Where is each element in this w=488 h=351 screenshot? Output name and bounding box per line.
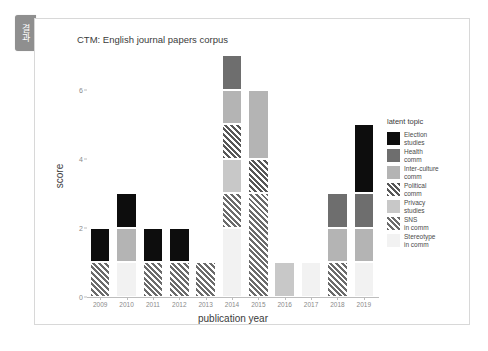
legend: latent topic Election studiesHealth comm… [387, 117, 467, 250]
bar-group[interactable] [90, 55, 111, 297]
bar-group[interactable] [248, 55, 269, 297]
bar-segment-political-comm[interactable] [222, 124, 243, 159]
y-axis-tick-mark [84, 89, 87, 90]
bar-segment-stereotype-in-comm[interactable] [116, 262, 137, 297]
x-axis-tick-mark [232, 297, 233, 300]
x-axis-tick-mark [364, 297, 365, 300]
side-tab-results[interactable]: 결과 [15, 15, 36, 51]
bar-segment-election-studies[interactable] [90, 228, 111, 263]
bar-segment-health-comm[interactable] [327, 193, 348, 228]
bar-segment-sns-in-comm[interactable] [195, 262, 216, 297]
legend-swatch-health-comm [387, 149, 400, 162]
legend-swatch-inter-culture-comm [387, 166, 400, 179]
x-axis-tick-label: 2011 [146, 301, 160, 308]
bar-segment-election-studies[interactable] [169, 228, 190, 263]
x-axis-line [87, 297, 379, 298]
legend-item-political-comm[interactable]: Political comm [387, 182, 467, 197]
x-axis-tick-label: 2010 [119, 301, 133, 308]
bar-group[interactable] [327, 55, 348, 297]
legend-item-stereotype-in-comm[interactable]: Stereotype in comm [387, 233, 467, 248]
bar-group[interactable] [274, 55, 295, 297]
x-axis-tick-label: 2015 [251, 301, 265, 308]
x-axis-tick-label: 2013 [198, 301, 212, 308]
bar-segment-stereotype-in-comm[interactable] [354, 262, 375, 297]
y-axis-title: score [54, 164, 65, 188]
bar-segment-inter-culture-comm[interactable] [327, 228, 348, 263]
legend-label-stereotype-in-comm: Stereotype in comm [404, 233, 435, 248]
x-axis-title: publication year [87, 313, 379, 324]
bar-segment-sns-in-comm[interactable] [90, 262, 111, 297]
bar-segment-health-comm[interactable] [222, 55, 243, 90]
bar-segment-sns-in-comm[interactable] [222, 193, 243, 228]
x-axis-tick-label: 2019 [357, 301, 371, 308]
legend-swatch-stereotype-in-comm [387, 234, 400, 247]
side-tab-label: 결과 [21, 24, 31, 42]
bar-group[interactable] [222, 55, 243, 297]
bar-group[interactable] [354, 55, 375, 297]
bar-group[interactable] [116, 55, 137, 297]
bar-segment-health-comm[interactable] [354, 193, 375, 228]
x-axis-tick-label: 2014 [225, 301, 239, 308]
bar-group[interactable] [143, 55, 164, 297]
legend-item-election-studies[interactable]: Election studies [387, 131, 467, 146]
plot-panel: 0246200920102011201220132014201520162017… [87, 55, 377, 297]
legend-item-privacy-studies[interactable]: Privacy studies [387, 199, 467, 214]
bar-segment-privacy-studies[interactable] [222, 159, 243, 194]
bar-segment-stereotype-in-comm[interactable] [222, 228, 243, 297]
y-axis-tick-mark [84, 158, 87, 159]
plot-inner: 0246200920102011201220132014201520162017… [87, 55, 377, 297]
legend-label-privacy-studies: Privacy studies [404, 199, 425, 214]
bar-segment-inter-culture-comm[interactable] [354, 228, 375, 263]
x-axis-tick-label: 2016 [277, 301, 291, 308]
legend-swatch-privacy-studies [387, 200, 400, 213]
bar-segment-inter-culture-comm[interactable] [222, 90, 243, 125]
x-axis-tick-mark [127, 297, 128, 300]
x-axis-tick-label: 2017 [304, 301, 318, 308]
bar-segment-stereotype-in-comm[interactable] [301, 262, 322, 297]
x-axis-tick-mark [285, 297, 286, 300]
chart-title: CTM: English journal papers corpus [77, 34, 228, 45]
stacked-bar-chart: CTM: English journal papers corpus 02462… [35, 19, 471, 326]
x-axis-tick-label: 2009 [93, 301, 107, 308]
legend-label-health-comm: Health comm [404, 148, 423, 163]
legend-items: Election studiesHealth commInter-culture… [387, 131, 467, 248]
x-axis-tick-mark [179, 297, 180, 300]
bar-group[interactable] [195, 55, 216, 297]
bar-group[interactable] [169, 55, 190, 297]
x-axis-tick-label: 2012 [172, 301, 186, 308]
y-axis-tick-mark [84, 297, 87, 298]
legend-item-health-comm[interactable]: Health comm [387, 148, 467, 163]
y-axis-tick-mark [84, 227, 87, 228]
legend-title: latent topic [387, 117, 467, 126]
legend-item-sns-in-comm[interactable]: SNS in comm [387, 216, 467, 231]
legend-label-political-comm: Political comm [404, 182, 426, 197]
legend-swatch-election-studies [387, 132, 400, 145]
bar-segment-political-comm[interactable] [248, 159, 269, 194]
bar-segment-inter-culture-comm[interactable] [248, 90, 269, 159]
bar-segment-sns-in-comm[interactable] [327, 262, 348, 297]
x-axis-tick-mark [311, 297, 312, 300]
bar-segment-inter-culture-comm[interactable] [116, 228, 137, 263]
bar-segment-sns-in-comm[interactable] [169, 262, 190, 297]
document-page-frame: CTM: English journal papers corpus 02462… [34, 18, 470, 325]
x-axis-tick-mark [206, 297, 207, 300]
legend-label-election-studies: Election studies [404, 131, 427, 146]
bar-segment-sns-in-comm[interactable] [143, 262, 164, 297]
bar-segment-election-studies[interactable] [354, 124, 375, 193]
x-axis-tick-mark [337, 297, 338, 300]
bar-segment-sns-in-comm[interactable] [248, 193, 269, 297]
bar-group[interactable] [301, 55, 322, 297]
bar-segment-election-studies[interactable] [143, 228, 164, 263]
x-axis-tick-label: 2018 [330, 301, 344, 308]
bar-segment-election-studies[interactable] [116, 193, 137, 228]
bar-segment-privacy-studies[interactable] [274, 262, 295, 297]
legend-swatch-sns-in-comm [387, 217, 400, 230]
legend-item-inter-culture-comm[interactable]: Inter-culture comm [387, 165, 467, 180]
legend-label-sns-in-comm: SNS in comm [404, 216, 429, 231]
legend-swatch-political-comm [387, 183, 400, 196]
legend-label-inter-culture-comm: Inter-culture comm [404, 165, 439, 180]
x-axis-tick-mark [100, 297, 101, 300]
x-axis-tick-mark [258, 297, 259, 300]
x-axis-tick-mark [153, 297, 154, 300]
